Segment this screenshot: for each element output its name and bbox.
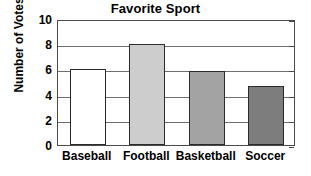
y-tick-label: 10 [22, 14, 52, 26]
y-tick-label: 8 [22, 39, 52, 51]
x-tick-label: Soccer [245, 149, 285, 163]
y-axis-tick-mark [289, 147, 294, 148]
bars-group [58, 21, 294, 145]
y-tick-label: 2 [22, 115, 52, 127]
y-tick-label: 6 [22, 64, 52, 76]
x-tick-label: Baseball [62, 149, 111, 163]
y-axis-tick-labels: 1086420 [22, 20, 52, 146]
y-tick-label: 4 [22, 90, 52, 102]
y-tick-label: 0 [22, 140, 52, 152]
bar [129, 44, 165, 145]
x-tick-label: Football [123, 149, 170, 163]
bar [70, 69, 106, 145]
x-axis-tick-labels: BaseballFootballBasketballSoccer [57, 149, 295, 169]
x-tick-label: Basketball [176, 149, 236, 163]
bar-chart: Favorite Sport Number of Votes 1086420 B… [0, 0, 311, 176]
bar [248, 86, 284, 145]
plot-area [57, 20, 295, 146]
bar [189, 71, 225, 145]
